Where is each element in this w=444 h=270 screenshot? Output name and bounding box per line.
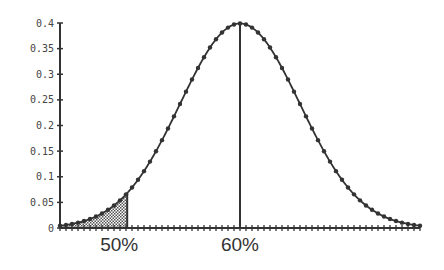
- data-point-marker: [346, 185, 350, 189]
- data-point-marker: [244, 22, 248, 26]
- y-tick-label: 0.15: [30, 146, 54, 157]
- data-point-marker: [292, 89, 296, 93]
- data-point-marker: [88, 217, 92, 221]
- data-point-marker: [166, 126, 170, 130]
- y-tick-label: 0.4: [36, 18, 54, 29]
- data-point-marker: [136, 178, 140, 182]
- data-point-marker: [268, 45, 272, 49]
- data-point-marker: [352, 192, 356, 196]
- shaded-tail-area: [60, 193, 127, 228]
- data-point-marker: [220, 30, 224, 34]
- x-annotation-label: 50%: [100, 234, 138, 255]
- data-point-marker: [322, 149, 326, 153]
- data-point-marker: [58, 224, 62, 228]
- data-point-marker: [70, 222, 74, 226]
- y-tick-label: 0.25: [30, 94, 54, 105]
- data-point-marker: [130, 185, 134, 189]
- data-point-marker: [154, 149, 158, 153]
- data-point-marker: [100, 211, 104, 215]
- data-point-marker: [94, 214, 98, 218]
- data-point-marker: [394, 219, 398, 223]
- data-point-marker: [106, 208, 110, 212]
- data-point-marker: [256, 30, 260, 34]
- data-point-marker: [232, 22, 236, 26]
- data-point-marker: [172, 114, 176, 118]
- y-tick-label: 0.3: [36, 69, 54, 80]
- data-point-marker: [118, 198, 122, 202]
- data-point-marker: [304, 114, 308, 118]
- data-point-marker: [382, 214, 386, 218]
- data-point-marker: [286, 77, 290, 81]
- data-point-marker: [406, 222, 410, 226]
- data-point-marker: [76, 220, 80, 224]
- data-point-marker: [148, 159, 152, 163]
- data-point-marker: [142, 169, 146, 173]
- y-tick-label: 0.35: [30, 43, 54, 54]
- data-point-marker: [202, 55, 206, 59]
- data-point-marker: [358, 198, 362, 202]
- data-point-marker: [316, 138, 320, 142]
- normal-distribution-chart: 00.050.10.150.20.250.30.350.4 50%60%: [0, 0, 444, 270]
- data-point-marker: [298, 102, 302, 106]
- data-point-marker: [124, 192, 128, 196]
- data-point-marker: [274, 55, 278, 59]
- data-point-marker: [184, 89, 188, 93]
- y-tick-label: 0.05: [30, 197, 54, 208]
- data-point-marker: [412, 223, 416, 227]
- data-point-marker: [190, 77, 194, 81]
- data-point-marker: [310, 126, 314, 130]
- data-point-marker: [400, 220, 404, 224]
- data-point-marker: [376, 211, 380, 215]
- data-point-marker: [388, 217, 392, 221]
- data-point-marker: [262, 37, 266, 41]
- data-point-marker: [196, 66, 200, 70]
- data-point-marker: [280, 66, 284, 70]
- data-point-marker: [160, 138, 164, 142]
- data-point-marker: [208, 45, 212, 49]
- data-point-marker: [178, 102, 182, 106]
- data-point-marker: [340, 178, 344, 182]
- data-point-marker: [364, 203, 368, 207]
- y-tick-label: 0.2: [36, 120, 54, 131]
- y-tick-label: 0.1: [36, 171, 54, 182]
- data-point-marker: [226, 25, 230, 29]
- data-point-marker: [112, 203, 116, 207]
- data-point-marker: [370, 208, 374, 212]
- data-point-marker: [250, 25, 254, 29]
- data-point-marker: [64, 223, 68, 227]
- data-point-marker: [328, 159, 332, 163]
- y-axis: 00.050.10.150.20.250.30.350.4: [30, 18, 63, 234]
- data-point-marker: [418, 224, 422, 228]
- x-annotation-label: 60%: [221, 234, 259, 255]
- x-annotations: 50%60%: [100, 234, 259, 255]
- data-point-marker: [334, 169, 338, 173]
- data-point-marker: [82, 219, 86, 223]
- y-tick-label: 0: [48, 223, 54, 234]
- data-point-marker: [214, 37, 218, 41]
